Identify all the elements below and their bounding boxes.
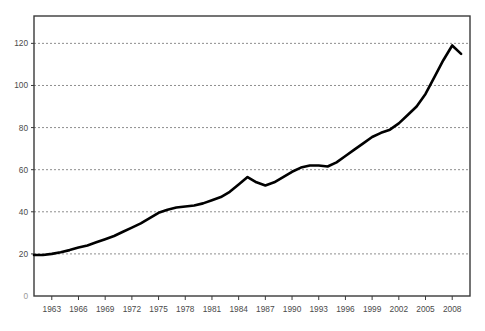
y-tick-label-100: 100 (14, 80, 28, 90)
x-tick-label-1993: 1993 (310, 304, 329, 314)
x-tick-label-2005: 2005 (416, 304, 435, 314)
x-tick-label-1963: 1963 (43, 304, 62, 314)
line-chart: 20406080100120 0 19631966196919721975197… (0, 0, 485, 331)
x-tick-label-2002: 2002 (390, 304, 409, 314)
x-tick-label-1996: 1996 (336, 304, 355, 314)
x-tick-label-1972: 1972 (123, 304, 142, 314)
x-tick-label-1969: 1969 (96, 304, 115, 314)
chart-container: 20406080100120 0 19631966196919721975197… (0, 0, 485, 331)
origin-zero-label: 0 (23, 291, 28, 301)
y-tick-label-40: 40 (19, 207, 29, 217)
y-tick-label-20: 20 (19, 249, 29, 259)
y-axis-tick-labels: 20406080100120 (14, 38, 34, 259)
x-tick-label-1966: 1966 (69, 304, 88, 314)
x-tick-label-1981: 1981 (203, 304, 222, 314)
y-tick-label-60: 60 (19, 165, 29, 175)
y-tick-label-80: 80 (19, 123, 29, 133)
x-tick-label-1990: 1990 (283, 304, 302, 314)
x-tick-label-1999: 1999 (363, 304, 382, 314)
x-tick-label-1978: 1978 (176, 304, 195, 314)
x-tick-label-1984: 1984 (229, 304, 248, 314)
x-axis-tick-labels: 1963196619691972197519781981198419871990… (43, 304, 462, 314)
x-tick-label-2008: 2008 (443, 304, 462, 314)
x-tick-label-1987: 1987 (256, 304, 275, 314)
y-tick-label-120: 120 (14, 38, 28, 48)
x-tick-label-1975: 1975 (149, 304, 168, 314)
